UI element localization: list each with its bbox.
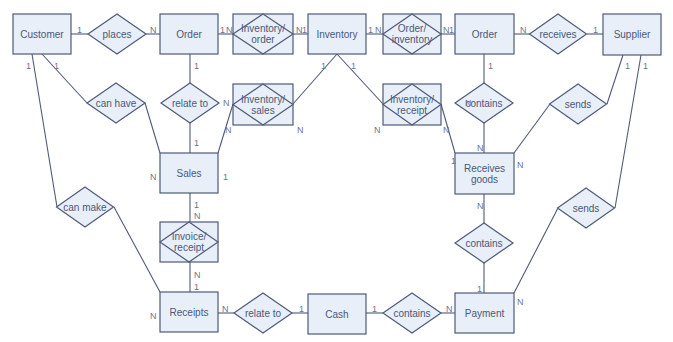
associative-entity-label: sales: [251, 105, 274, 116]
relationship-label: places: [103, 29, 132, 40]
connector-line: [42, 54, 87, 103]
associative-entity-label: Order/: [398, 23, 427, 34]
cardinality-label: 1: [488, 61, 493, 71]
entity-cash: Cash: [308, 294, 366, 334]
relationship-places: places: [88, 14, 146, 54]
cardinality-label: N: [520, 25, 527, 35]
relationship-receives: receives: [530, 14, 587, 54]
cardinality-label: N: [477, 143, 484, 153]
relationship-label: sends: [565, 99, 592, 110]
entity-customer: Customer: [13, 14, 71, 54]
associative-entity-label: Invoice/: [172, 231, 207, 242]
associative-entity-inventory-sales: Inventory/sales: [233, 84, 293, 125]
connector-line: [615, 55, 641, 208]
cardinality-label: N: [150, 311, 157, 321]
cardinality-label: 1: [351, 61, 356, 71]
cardinality-label: 1: [449, 25, 454, 35]
cardinality-label: N: [517, 160, 524, 170]
associative-entity-label: order: [251, 34, 275, 45]
entity-label: Customer: [20, 29, 64, 40]
cardinality-label: N: [194, 211, 201, 221]
associative-entity-label: receipt: [397, 105, 427, 116]
entity-label: Sales: [176, 168, 201, 179]
associative-entity-inventory-order: Inventory/order: [233, 14, 293, 54]
cardinality-label: N: [446, 304, 453, 314]
relationship-sends-top: sends: [550, 84, 607, 124]
cardinality-label: 1: [321, 61, 326, 71]
cardinality-label: N: [375, 25, 382, 35]
cardinality-label: 1: [26, 61, 31, 71]
entity-label: Order: [472, 29, 498, 40]
relationship-label: relate to: [245, 308, 282, 319]
entity-label: Order: [176, 29, 202, 40]
cardinality-label: 1: [302, 25, 307, 35]
cardinality-label: N: [225, 125, 232, 135]
cardinality-label: N: [374, 125, 381, 135]
cardinality-label: 1: [54, 61, 59, 71]
cardinality-label: N: [477, 201, 484, 211]
relationship-contains-mid: contains: [455, 223, 513, 263]
entity-label: Payment: [465, 308, 505, 319]
associative-entity-label: receipt: [174, 242, 204, 253]
cardinality-label: N: [297, 125, 304, 135]
entity-order-left: Order: [160, 14, 218, 54]
relationship-sends-low: sends: [558, 188, 615, 228]
cardinality-label: N: [226, 25, 233, 35]
connector-line: [114, 207, 160, 292]
relationships: placesreceivescan haverelate tocontainss…: [57, 14, 615, 333]
cardinality-label: 1: [593, 25, 598, 35]
connector-line: [337, 54, 383, 104]
cardinality-label: N: [150, 25, 157, 35]
cardinality-label: 1: [368, 25, 373, 35]
cardinality-label: N: [194, 270, 201, 280]
cardinality-label: N: [465, 98, 472, 108]
entity-label: Receives: [464, 163, 505, 174]
connector-line: [293, 54, 337, 104]
entity-label: Cash: [325, 309, 348, 320]
entity-order-right: Order: [455, 14, 514, 54]
relationship-label: sends: [573, 203, 600, 214]
cardinality-label: 1: [194, 61, 199, 71]
relationship-label: relate to: [172, 98, 209, 109]
cardinality-label: 1: [194, 282, 199, 292]
relationship-relate-to-top: relate to: [161, 83, 219, 123]
connector-line: [514, 104, 550, 153]
cardinality-label: 1: [451, 156, 456, 166]
entity-sales: Sales: [160, 153, 218, 193]
entity-label: Inventory: [316, 29, 357, 40]
cardinality-label: 1: [194, 200, 199, 210]
connector-line: [607, 55, 623, 104]
associative-entity-label: Inventory/: [241, 94, 285, 105]
relationship-can-have: can have: [87, 83, 145, 123]
relationship-label: receives: [539, 29, 576, 40]
associative-entity-invoice-receipt: Invoice/receipt: [160, 222, 218, 262]
entity-payment: Payment: [455, 293, 514, 333]
entity-label: Supplier: [614, 29, 651, 40]
relationship-label: can make: [63, 202, 107, 213]
cardinality-label: N: [443, 125, 450, 135]
associative-entity-inventory-receipt: Inventory/receipt: [383, 84, 441, 125]
cardinality-label: 1: [220, 25, 225, 35]
connector-lines: [32, 34, 641, 313]
cardinality-label: 1: [194, 138, 199, 148]
relationship-contains-bottom: contains: [383, 293, 441, 333]
cardinality-label: 1: [223, 172, 228, 182]
cardinality-label: 1: [643, 61, 648, 71]
relationship-relate-to-bottom: relate to: [234, 293, 292, 333]
relationship-label: can have: [96, 98, 137, 109]
entity-inventory: Inventory: [308, 14, 366, 54]
relationship-label: contains: [393, 308, 430, 319]
associative-entity-label: Inventory/: [241, 23, 285, 34]
cardinality-label: N: [517, 297, 524, 307]
associative-entity-order-inventory: Order/inventory: [383, 14, 441, 54]
connector-line: [32, 54, 57, 207]
entity-receipts: Receipts: [160, 292, 218, 332]
relationship-label: contains: [465, 238, 502, 249]
entity-label: Receipts: [170, 307, 209, 318]
relationship-contains-top: contains: [455, 83, 513, 123]
entity-label: goods: [471, 174, 498, 185]
entity-supplier: Supplier: [603, 14, 661, 55]
cardinality-label: N: [223, 98, 230, 108]
associative-entity-label: inventory: [392, 34, 433, 45]
cardinality-label: 1: [77, 25, 82, 35]
